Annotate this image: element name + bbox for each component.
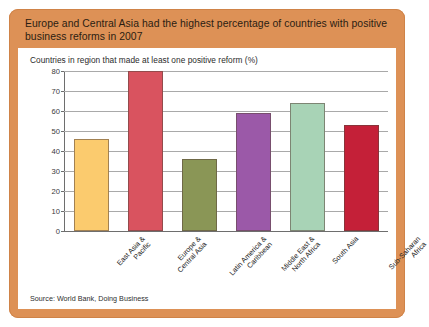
y-tick-mark-20 (61, 191, 64, 192)
bar (290, 103, 325, 231)
y-tick-mark-0 (61, 231, 64, 232)
gridline-10 (64, 211, 388, 212)
gridline-50 (64, 131, 388, 132)
chart-card: Countries in region that made at least o… (18, 48, 396, 309)
bar (128, 71, 163, 231)
y-tick-label-80: 80 (52, 67, 60, 76)
bar (344, 125, 379, 231)
y-tick-mark-10 (61, 211, 64, 212)
source-note: Source: World Bank, Doing Business (30, 294, 148, 303)
headline-text: Europe and Central Asia had the highest … (25, 17, 389, 44)
gridline-20 (64, 191, 388, 192)
plot-area: 01020304050607080 (64, 71, 388, 232)
bar (236, 113, 271, 231)
gridline-40 (64, 151, 388, 152)
y-tick-mark-30 (61, 171, 64, 172)
y-tick-mark-40 (61, 151, 64, 152)
y-tick-label-20: 20 (52, 187, 60, 196)
x-tick-label: Latin America &Caribbean (228, 235, 275, 283)
bar (74, 139, 109, 231)
x-tick-label: Middle East &North Africa (280, 235, 323, 279)
y-tick-label-50: 50 (52, 127, 60, 136)
x-axis-line (64, 231, 388, 232)
y-tick-label-60: 60 (52, 107, 60, 116)
gridline-70 (64, 91, 388, 92)
x-tick-label: Europe &Central Asia (170, 235, 209, 275)
x-tick-label: East Asia &Pacific (116, 235, 153, 273)
x-tick-label: Sub-SaharanAfrica (387, 235, 428, 277)
gridline-30 (64, 171, 388, 172)
y-tick-label-30: 30 (52, 167, 60, 176)
bar (182, 159, 217, 231)
y-tick-label-40: 40 (52, 147, 60, 156)
chart-subtitle: Countries in region that made at least o… (30, 55, 258, 65)
gridline-80 (64, 71, 388, 72)
x-tick-label: South Asia (331, 235, 361, 266)
y-tick-mark-60 (61, 111, 64, 112)
y-tick-label-70: 70 (52, 87, 60, 96)
y-tick-mark-70 (61, 91, 64, 92)
orange-panel: Europe and Central Asia had the highest … (9, 9, 405, 318)
y-tick-mark-80 (61, 71, 64, 72)
y-tick-label-10: 10 (52, 207, 60, 216)
gridline-60 (64, 111, 388, 112)
y-tick-mark-50 (61, 131, 64, 132)
y-tick-label-0: 0 (56, 227, 60, 236)
